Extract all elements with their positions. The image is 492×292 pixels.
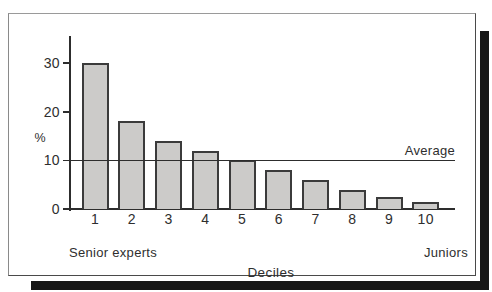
x-tick-label-1: 1	[80, 212, 110, 227]
bar-decile-3	[155, 141, 182, 209]
bar-decile-1	[82, 63, 109, 209]
x-tick-label-5: 5	[227, 212, 257, 227]
bar-decile-9	[376, 197, 403, 209]
bar-decile-7	[302, 180, 329, 209]
y-tick-20	[63, 111, 69, 113]
x-tick-label-4: 4	[190, 212, 220, 227]
y-axis-line	[69, 36, 71, 211]
frame-drop-shadow-right	[480, 31, 489, 290]
x-tick-label-7: 7	[301, 212, 331, 227]
x-tick-label-3: 3	[154, 212, 184, 227]
bar-decile-10	[412, 202, 439, 209]
left-group-label: Senior experts	[69, 245, 157, 260]
y-tick-30	[63, 62, 69, 64]
average-label: Average	[345, 143, 455, 158]
x-tick-label-6: 6	[264, 212, 294, 227]
bar-decile-8	[339, 190, 366, 209]
y-tick-label-0: 0	[28, 201, 60, 217]
y-tick-label-30: 30	[28, 55, 60, 71]
y-tick-label-20: 20	[28, 104, 60, 120]
frame-drop-shadow-bottom	[31, 281, 489, 290]
bar-decile-2	[118, 121, 145, 209]
bar-decile-6	[265, 170, 292, 209]
x-tick-label-8: 8	[337, 212, 367, 227]
x-tick-label-9: 9	[374, 212, 404, 227]
bar-decile-5	[229, 160, 256, 209]
y-tick-label-10: 10	[28, 152, 60, 168]
right-group-label: Juniors	[388, 245, 468, 260]
y-axis-unit-label: %	[29, 130, 51, 146]
scanned-chart-figure: % Senior experts Juniors Deciles Average…	[0, 0, 492, 292]
x-axis-title: Deciles	[78, 265, 464, 280]
x-tick-label-10: 10	[411, 212, 441, 227]
y-tick-0	[63, 208, 69, 210]
x-tick-label-2: 2	[117, 212, 147, 227]
average-line	[69, 160, 455, 162]
plot-area: Average 123456789100102030	[69, 36, 455, 209]
